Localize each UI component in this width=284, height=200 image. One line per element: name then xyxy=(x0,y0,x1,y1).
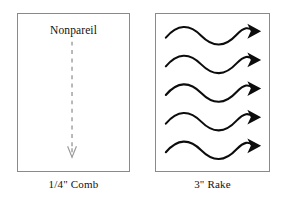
comb-flow-marker xyxy=(18,14,129,171)
wavy-arrow-2 xyxy=(166,53,261,74)
wavy-arrow-5 xyxy=(166,138,261,159)
rake-flow-markers xyxy=(156,14,269,171)
figure-root: Nonpareil 1/4" Comb xyxy=(0,0,284,200)
panel-comb: Nonpareil xyxy=(17,13,130,172)
wavy-arrow-1 xyxy=(166,24,261,45)
wavy-arrow-4 xyxy=(166,110,261,131)
wavy-arrow-3 xyxy=(166,81,261,102)
caption-comb: 1/4" Comb xyxy=(17,179,130,190)
caption-rake: 3" Rake xyxy=(155,179,270,190)
panel-rake xyxy=(155,13,270,172)
